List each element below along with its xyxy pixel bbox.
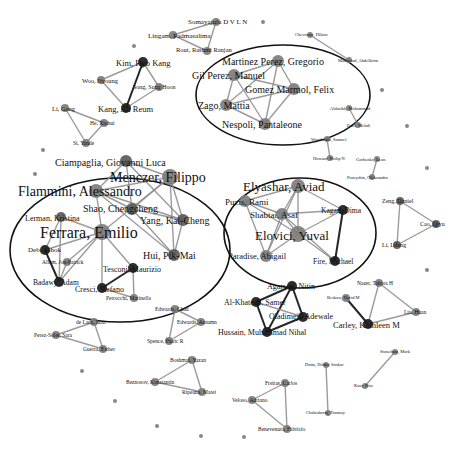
node-label: Mahmoud, Abdelkrim (338, 58, 378, 64)
edge (365, 352, 395, 386)
edge (94, 322, 103, 349)
node-label: Zeng, Daniel (382, 198, 414, 204)
network-diagram: Somayajulu D V L NLingam, PadmasalimaRou… (0, 0, 464, 453)
node-label: Gorbenko, Leon (356, 157, 386, 163)
node-label: Elyashar, Aviad (243, 179, 325, 194)
node-label: Fire, Michael (313, 257, 353, 266)
node-label: Hui, Pik-Mai (143, 250, 196, 261)
node-label: Lingam, Padmasalima (148, 32, 211, 40)
node-label: Kim, Hyo Kang (116, 58, 171, 68)
node-label: Si, Yunde (73, 140, 95, 146)
node-label: Shao, Chengcheng (83, 203, 158, 214)
node-label: He, Xiuhui (90, 120, 115, 126)
node-label: Flammini, Alessandro (18, 184, 142, 199)
node-label: Paradise, Abigail (228, 251, 287, 261)
node-label: Deb, Ashok (28, 246, 62, 254)
node-label: Liu, Huan (404, 309, 427, 315)
node-label: Nespoli, Pantaleone (222, 119, 303, 130)
node-label: Petrocchi, Marinella (106, 295, 151, 301)
node-tiny-bl1[interactable] (80, 369, 84, 373)
node-label: Ferrara, Emilio (40, 224, 138, 241)
node-label: Veloso, Adriano (232, 397, 268, 403)
node-label: Yang, Kai-Cheng (140, 215, 210, 226)
node-label: Menczer, Filippo (110, 170, 206, 185)
node-label: Cresci, Stefano (75, 285, 124, 294)
edge (65, 108, 86, 143)
node-label: Al-Khateeb, Samer (224, 298, 286, 307)
edge (397, 201, 400, 245)
node-tiny-right4[interactable] (425, 268, 429, 272)
node-label: de Lara, Juan (76, 319, 106, 325)
node-label: Elovici, Yuval (255, 228, 329, 243)
node-label: Edwards, Autumn (177, 319, 217, 325)
node-label: Rout, Rashmi Ranjan (176, 46, 233, 53)
node-tiny-right1[interactable] (380, 88, 384, 92)
node-tiny-top1[interactable] (132, 44, 136, 48)
node-label: Allem, Jon-Patrick (42, 259, 84, 265)
node-tiny-bm1[interactable] (242, 435, 246, 439)
node-tiny-right3[interactable] (425, 166, 429, 170)
node-label: Freitas, Carlos (265, 380, 297, 386)
node-label: Beznosov, Konstantin (126, 379, 174, 385)
node-label: Benevenuto, Fabricio (258, 426, 306, 432)
node-label: Gomez Marmol, Felix (245, 84, 334, 95)
node-tiny-bl2[interactable] (113, 399, 117, 403)
node-label: Badawy, Adam (33, 278, 79, 287)
node-label: Kang, Ah Reum (98, 104, 153, 114)
edge (368, 283, 379, 324)
node-label: Ciampaglia, Giovanni Luca (55, 157, 166, 168)
node-label: Hussain, Muhammad Nihal (218, 328, 307, 337)
node-tiny-left1[interactable] (41, 148, 45, 152)
edge (335, 210, 343, 261)
node-label: Perez-Soler, Sara (34, 332, 73, 338)
node-tiny-left2[interactable] (33, 172, 37, 176)
network-canvas: Somayajulu D V L NLingam, PadmasalimaRou… (0, 0, 464, 453)
edge (379, 283, 416, 312)
node-label: Guerra, Esther (83, 346, 115, 352)
node-label: Puzis, Rami (225, 197, 269, 207)
node-tiny-top2[interactable] (261, 20, 265, 24)
node-label: Boshmaf, Yazan (170, 357, 206, 363)
node-label: Spence, Patric R (147, 338, 184, 344)
node-label: Li, Lifeng (382, 242, 406, 248)
node-label: Cao, Qiyu (420, 221, 445, 227)
node-tiny-right2[interactable] (405, 124, 409, 128)
node-label: Agarwal, Nitin (267, 282, 315, 291)
node-label: Edwards, Chad (155, 306, 189, 312)
node-label: Shabtai, Asaf (250, 210, 298, 220)
edge (285, 383, 287, 429)
node-tiny-bl3[interactable] (155, 424, 159, 428)
node-label: Kagan, Dima (321, 206, 362, 215)
node-label: Fazli, Mehdi (347, 123, 371, 129)
node-label: Somayajulu D V L N (188, 18, 247, 26)
edge (192, 360, 202, 392)
node-label: Song, Sung Hoon (133, 84, 176, 90)
node-label: Zago, Mattia (198, 100, 250, 111)
node-label: Martinez Perez, Gregorio (222, 56, 324, 67)
node-label: Tesconi, Maurizio (103, 265, 161, 274)
node-label: Lerman, Kristina (25, 214, 80, 223)
node-label: Carley, Kathleen M (333, 320, 400, 330)
node-tiny-bl4[interactable] (199, 434, 203, 438)
node-label: Howard, Philip N (313, 156, 346, 162)
node-label: Procyshin, Oleksandra (347, 175, 388, 181)
node-label: Li, Gang (52, 105, 76, 112)
node-label: Gil Perez, Manuel (192, 70, 265, 81)
node-label: Nazer, Tahora H (357, 280, 393, 286)
edge (326, 365, 328, 413)
edge (252, 400, 287, 429)
node-label: Ripeanu, Matei (182, 389, 216, 395)
node-label: Oladimeji, Adewale (269, 312, 333, 321)
node-label: Woo, Jiyoung (82, 77, 119, 84)
